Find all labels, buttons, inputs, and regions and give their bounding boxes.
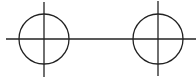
diagram-canvas <box>0 0 196 80</box>
